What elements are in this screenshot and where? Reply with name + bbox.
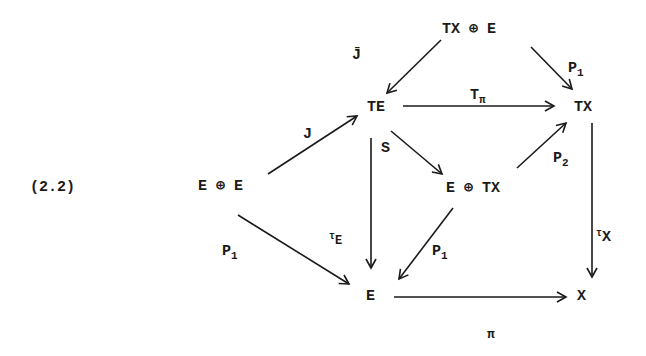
label-tau-e-main: E (335, 234, 342, 248)
label-tau-x-main: X (602, 229, 611, 246)
node-e-plus-e: E ⊕ E (198, 179, 243, 194)
label-p2: P2 (553, 151, 569, 166)
node-tx-plus-e: TX ⊕ E (442, 22, 496, 37)
node-tx-top: TX (574, 100, 592, 115)
label-t-pi-main: T (470, 87, 479, 104)
arrow-p1-top (531, 47, 572, 89)
label-p2-main: P (553, 150, 562, 167)
label-p1-top: P1 (568, 61, 584, 76)
node-e-bottom: E (366, 289, 375, 304)
label-p1-mid-sub: 1 (441, 250, 448, 262)
node-e-plus-tx: E ⊕ TX (446, 181, 500, 196)
label-p1-top-main: P (568, 60, 577, 77)
label-s: S (381, 141, 390, 156)
label-p1-left-sub: 1 (231, 250, 238, 262)
label-p1-mid: P1 (432, 244, 448, 259)
label-tau-x: τX (596, 230, 611, 245)
label-tau-x-pre: τ (596, 228, 602, 239)
label-pi: π (487, 328, 495, 341)
arrow-p1-left (238, 215, 349, 284)
arrow-j (268, 116, 357, 174)
label-t-pi: Tπ (470, 88, 486, 103)
node-x: X (577, 289, 586, 304)
arrow-jbar (387, 40, 441, 93)
label-tau-e: τE (329, 233, 342, 248)
node-te: TE (367, 100, 385, 115)
label-p1-mid-main: P (432, 243, 441, 260)
label-p1-left: P1 (222, 244, 238, 259)
label-jbar: J̄ (352, 48, 361, 63)
label-t-pi-sub: π (479, 94, 486, 106)
label-p1-left-main: P (222, 243, 231, 260)
diagram-arrows (0, 0, 646, 356)
label-p2-sub: 2 (562, 157, 569, 169)
arrow-s (391, 131, 442, 174)
equation-number: (2.2) (30, 179, 75, 196)
label-j: J (303, 127, 312, 142)
label-tau-e-pre: τ (329, 231, 335, 242)
label-p1-top-sub: 1 (577, 67, 584, 79)
